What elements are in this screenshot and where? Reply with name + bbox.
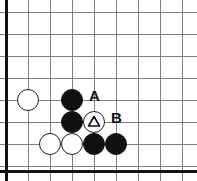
go-stone-white <box>17 89 39 111</box>
go-stone-white <box>61 133 83 155</box>
go-stone-black <box>83 133 105 155</box>
go-stone-black <box>61 111 83 133</box>
stone-layer <box>0 0 197 181</box>
triangle-mark-icon <box>83 111 105 133</box>
go-stone-white <box>39 133 61 155</box>
go-board-diagram: AB <box>0 0 197 181</box>
go-stone-black <box>61 89 83 111</box>
go-stone-black <box>105 133 127 155</box>
